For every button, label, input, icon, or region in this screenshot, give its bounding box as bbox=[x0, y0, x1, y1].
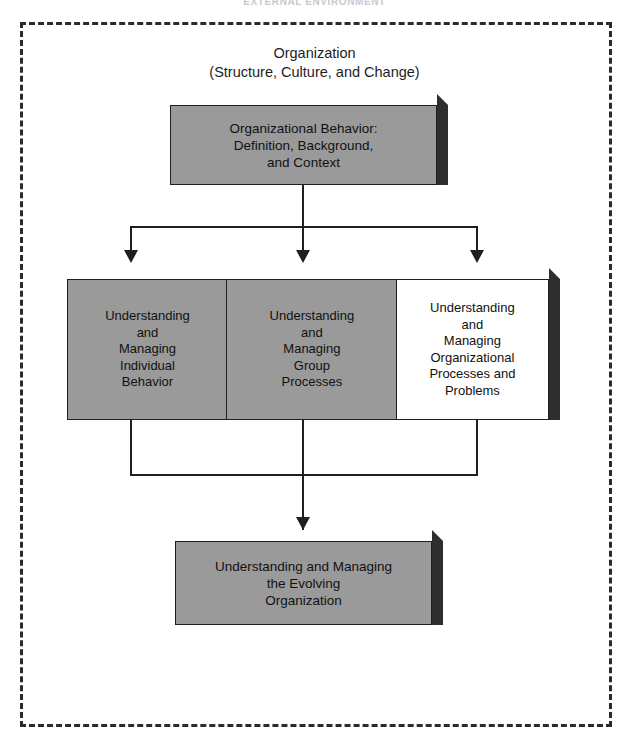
connector-branch-right bbox=[476, 226, 478, 252]
organization-caption-line1: Organization bbox=[273, 45, 355, 61]
connector-merge-right-stem bbox=[476, 420, 478, 476]
bottom-box-label: Understanding and Managing the Evolving … bbox=[207, 558, 400, 609]
node-individual-behavior[interactable]: Understanding and Managing Individual Be… bbox=[67, 279, 228, 420]
bottom-box-face: Understanding and Managing the Evolving … bbox=[175, 541, 432, 625]
arrowhead-to-individual-behavior bbox=[124, 250, 138, 263]
arrowhead-to-organizational-processes bbox=[470, 250, 484, 263]
connector-merge-left-stem bbox=[130, 420, 132, 476]
node-organizational-behavior[interactable]: Organizational Behavior: Definition, Bac… bbox=[170, 94, 448, 196]
diagram-canvas: EXTERNAL ENVIRONMENT Organization (Struc… bbox=[0, 0, 629, 745]
connector-merge-bar bbox=[130, 474, 478, 476]
individual-behavior-label: Understanding and Managing Individual Be… bbox=[97, 308, 198, 391]
page-running-header: EXTERNAL ENVIRONMENT bbox=[0, 0, 629, 5]
node-organizational-processes[interactable]: Understanding and Managing Organizationa… bbox=[396, 279, 549, 420]
arrowhead-to-group-processes bbox=[296, 250, 310, 263]
node-evolving-organization[interactable]: Understanding and Managing the Evolving … bbox=[175, 530, 443, 636]
top-box-face: Organizational Behavior: Definition, Bac… bbox=[170, 105, 437, 185]
organization-caption-line2: (Structure, Culture, and Change) bbox=[0, 63, 629, 82]
organizational-processes-label: Understanding and Managing Organizationa… bbox=[421, 300, 523, 399]
connector-branch-left bbox=[130, 226, 132, 252]
bottom-box-side-shadow bbox=[432, 530, 443, 625]
middle-strip-side-shadow bbox=[549, 268, 560, 420]
top-box-side-shadow bbox=[437, 94, 448, 185]
node-group-processes[interactable]: Understanding and Managing Group Process… bbox=[226, 279, 397, 420]
group-processes-label: Understanding and Managing Group Process… bbox=[262, 308, 363, 391]
connector-top-stem bbox=[302, 185, 304, 227]
arrowhead-to-evolving-organization bbox=[296, 517, 310, 530]
connector-branch-center bbox=[302, 226, 304, 252]
top-box-label: Organizational Behavior: Definition, Bac… bbox=[222, 120, 386, 171]
organization-caption: Organization (Structure, Culture, and Ch… bbox=[0, 44, 629, 82]
node-group-middle-strip: Understanding and Managing Individual Be… bbox=[67, 268, 560, 431]
